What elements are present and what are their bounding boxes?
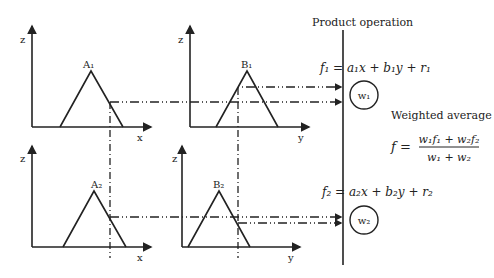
panel-bottom-y: z y B₂ [172,146,300,263]
membership-label-b2: B₂ [213,179,224,190]
membership-label-a1: A₁ [82,59,94,70]
formula-numerator: w₁f₁ + w₂f₂ [419,133,480,146]
x-axis-label: x [137,252,143,263]
weighted-average-label: Weighted average [391,109,492,122]
membership-triangle-b2 [188,191,250,247]
x-axis-label: x [137,132,143,143]
membership-triangle-a1 [60,71,123,127]
panel-bottom-x: z x A₂ [20,146,151,263]
weight-label-w2: w₂ [358,215,371,226]
rule2-equation: f₂ = a₂x + b₂y + r₂ [321,185,433,199]
formula-denominator: w₁ + w₂ [427,151,471,164]
weighted-average-formula: Weighted average f = w₁f₁ + w₂f₂ w₁ + w₂ [390,109,492,164]
y-axis-label: y [287,252,294,263]
membership-label-a2: A₂ [90,179,102,190]
rule1-equation: f₁ = a₁x + b₁y + r₁ [319,61,431,75]
y-axis-label: y [297,132,304,143]
projection-lines [110,87,341,258]
weight-label-w1: w₁ [358,90,371,101]
membership-label-b1: B₁ [241,59,252,70]
z-axis-label: z [178,34,183,45]
product-operation-label: Product operation [312,16,413,29]
anfis-diagram: z x A₁ z y B₁ z x A₂ z y B₂ [0,0,494,278]
z-axis-label: z [172,153,177,164]
formula-lhs: f = [390,139,411,154]
membership-triangle-b1 [216,71,278,127]
panel-top-y: z y B₁ [178,26,309,143]
z-axis-label: z [20,153,25,164]
panel-top-x: z x A₁ [20,26,151,143]
z-axis-label: z [20,34,25,45]
membership-triangle-a2 [63,191,126,247]
